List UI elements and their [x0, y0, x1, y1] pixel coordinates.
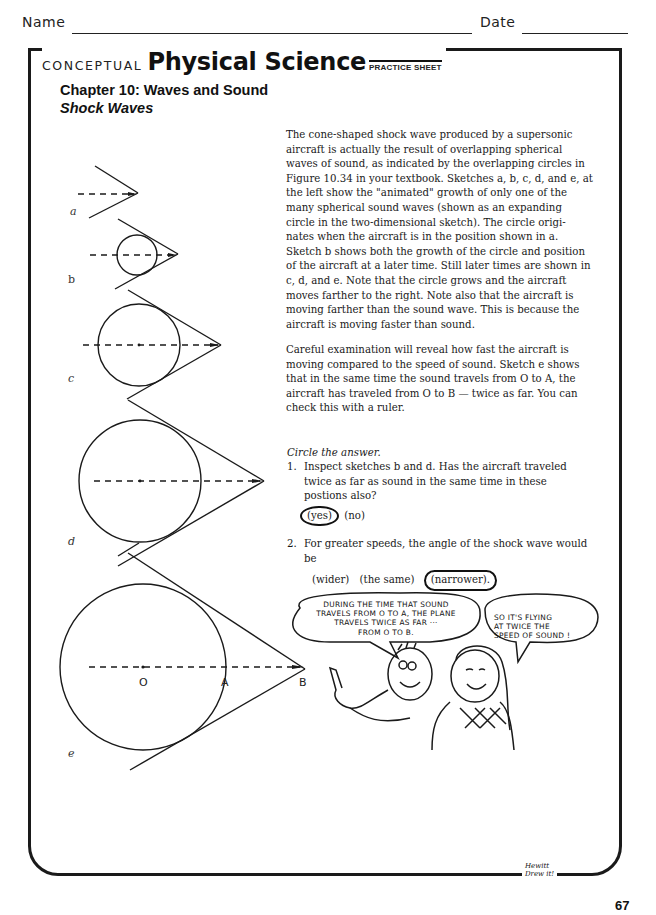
page-number: 67 [615, 898, 629, 913]
speech-line: TRAVELS TWICE AS FAR ··· [300, 618, 472, 627]
point-label-a: A [221, 676, 229, 689]
sketch-d [79, 400, 264, 566]
sketch-a [78, 166, 138, 218]
signature-line: Hewitt [525, 862, 554, 870]
speech-line: FROM O TO B. [300, 628, 472, 637]
girl-speech-text: SO IT'S FLYING AT TWICE THE SPEED OF SOU… [494, 613, 588, 641]
sketch-label-d: d [68, 535, 75, 548]
boy-speech-text: DURING THE TIME THAT SOUND TRAVELS FROM … [300, 600, 472, 637]
girl-head [451, 650, 499, 702]
signature: Hewitt Drew it! [522, 862, 557, 878]
sketch-b [90, 219, 178, 289]
speech-line: SO IT'S FLYING [494, 613, 588, 622]
speech-line: SPEED OF SOUND ! [494, 631, 588, 640]
sketch-label-b: b [68, 273, 75, 286]
shock-wave-sketches [0, 0, 656, 915]
speech-line: AT TWICE THE [494, 622, 588, 631]
boy-head [388, 648, 432, 700]
sketch-label-a: a [70, 205, 77, 218]
sketch-e [60, 543, 305, 770]
speech-line: DURING THE TIME THAT SOUND [300, 600, 472, 609]
signature-line: Drew it! [525, 870, 554, 878]
sketch-label-e: e [68, 747, 75, 760]
sketch-label-c: c [68, 372, 74, 385]
speech-line: TRAVELS FROM O TO A, THE PLANE [300, 609, 472, 618]
point-label-o: O [139, 676, 148, 689]
sketch-c [83, 290, 221, 399]
